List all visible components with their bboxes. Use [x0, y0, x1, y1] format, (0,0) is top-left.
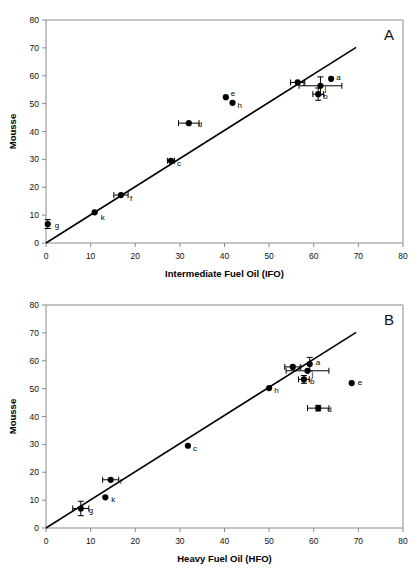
data-point-marker [186, 120, 192, 126]
data-point: e [223, 89, 236, 100]
data-point-label: a [316, 358, 321, 367]
data-point-marker [301, 376, 307, 382]
y-axis-title: Mousse [7, 114, 18, 149]
data-point-label: e [358, 378, 363, 387]
scatter-plot-a: 0102030405060708001020304050607080Interm… [0, 0, 418, 285]
data-point-label: c [193, 444, 197, 453]
data-point-label: g [55, 221, 59, 230]
data-point-marker [45, 221, 51, 227]
y-axis-tick-label: 10 [30, 495, 40, 505]
y-axis-tick-label: 10 [30, 210, 40, 220]
x-axis-tick-label: 20 [131, 251, 141, 261]
data-point-label: k [101, 213, 106, 222]
data-point-marker [92, 209, 98, 215]
data-point: a [328, 73, 341, 82]
data-point-marker [328, 76, 334, 82]
data-point-label: b [323, 92, 328, 101]
y-axis-tick-label: 0 [34, 238, 39, 248]
x-axis-tick-label: 80 [398, 536, 408, 546]
data-point-label: f [130, 194, 133, 203]
x-axis-tick-label: 60 [309, 536, 319, 546]
data-point-label: c [177, 159, 181, 168]
data-point: c [185, 443, 197, 453]
data-point-label: a [336, 73, 341, 82]
data-point: g [45, 220, 60, 230]
x-axis-title: Intermediate Fuel Oil (IFO) [165, 268, 284, 279]
data-point-marker [295, 79, 301, 85]
x-axis-tick-label: 60 [309, 251, 319, 261]
data-point-label: e [231, 89, 236, 98]
data-point-label: k [111, 495, 116, 504]
data-point-marker [315, 405, 321, 411]
data-point-label: b [310, 377, 315, 386]
data-point-marker [229, 100, 235, 106]
data-point: k [92, 209, 106, 222]
data-point-label: i [303, 79, 305, 88]
data-point-label: g [89, 506, 93, 515]
x-axis-tick-label: 70 [354, 251, 364, 261]
y-axis-tick-label: 60 [30, 71, 40, 81]
x-axis-tick-label: 0 [44, 251, 49, 261]
data-point-marker [102, 494, 108, 500]
data-point-marker [78, 505, 84, 511]
x-axis-tick-label: 50 [264, 251, 274, 261]
y-axis-tick-label: 30 [30, 154, 40, 164]
data-point: c [167, 158, 181, 168]
data-point: d [179, 120, 203, 129]
data-point-marker [307, 361, 313, 367]
panel-label: A [384, 26, 394, 43]
data-point-label: f [120, 477, 123, 486]
y-axis-tick-label: 40 [30, 412, 40, 422]
y-axis-title: Mousse [7, 399, 18, 434]
x-axis-tick-label: 80 [398, 251, 408, 261]
data-point: f [103, 477, 123, 486]
y-axis-tick-label: 80 [30, 15, 40, 25]
x-axis-tick-label: 50 [264, 536, 274, 546]
x-axis-title: Heavy Fuel Oil (HFO) [177, 553, 272, 564]
y-axis-tick-label: 50 [30, 99, 40, 109]
x-axis-tick-label: 30 [175, 536, 185, 546]
data-point-marker [290, 364, 296, 370]
data-point-marker [315, 91, 321, 97]
data-point-label: h [238, 101, 242, 110]
y-axis-tick-label: 50 [30, 384, 40, 394]
panel-label: B [384, 311, 394, 328]
data-point: e [349, 378, 363, 387]
data-point: d [308, 405, 332, 414]
x-axis-tick-label: 20 [131, 536, 141, 546]
y-axis-tick-label: 20 [30, 182, 40, 192]
scatter-plot-b: 0102030405060708001020304050607080Heavy … [0, 285, 418, 570]
data-point: g [73, 501, 93, 515]
y-axis-tick-label: 80 [30, 300, 40, 310]
data-point-marker [168, 158, 174, 164]
data-point-marker [349, 380, 355, 386]
data-point-label: h [274, 386, 278, 395]
x-axis-tick-label: 30 [175, 251, 185, 261]
data-point: h [229, 100, 242, 110]
data-point-label: d [327, 405, 331, 414]
x-axis-tick-label: 70 [354, 536, 364, 546]
panel-a: 0102030405060708001020304050607080Interm… [0, 0, 418, 285]
y-axis-tick-label: 30 [30, 439, 40, 449]
x-axis-tick-label: 40 [220, 536, 230, 546]
x-axis-tick-label: 10 [86, 251, 96, 261]
data-point-label: d [198, 120, 202, 129]
data-point: h [266, 385, 279, 395]
data-point-marker [266, 385, 272, 391]
y-axis-tick-label: 20 [30, 467, 40, 477]
data-point-marker [108, 477, 114, 483]
x-axis-tick-label: 40 [220, 251, 230, 261]
data-point-marker [223, 94, 229, 100]
x-axis-tick-label: 10 [86, 536, 96, 546]
figure-container: 0102030405060708001020304050607080Interm… [0, 0, 418, 570]
data-point-marker [185, 443, 191, 449]
panel-b: 0102030405060708001020304050607080Heavy … [0, 285, 418, 570]
y-axis-tick-label: 70 [30, 328, 40, 338]
data-point-marker [304, 368, 310, 374]
data-point: b [299, 376, 315, 387]
data-point: k [102, 494, 116, 504]
y-axis-tick-label: 40 [30, 127, 40, 137]
data-point-marker [118, 192, 124, 198]
y-axis-tick-label: 70 [30, 43, 40, 53]
x-axis-tick-label: 0 [44, 536, 49, 546]
